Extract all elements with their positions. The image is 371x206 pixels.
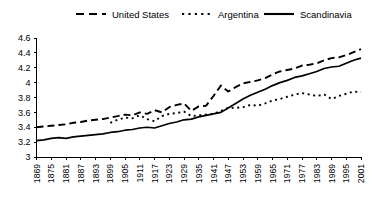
- chart-series-group: [37, 49, 362, 140]
- x-tick-label: 1869: [32, 164, 42, 183]
- x-tick-label: 1977: [297, 164, 307, 183]
- legend-label-scandinavia: Scandinavia: [300, 9, 352, 20]
- chart-legend: United StatesArgentinaScandinavia: [76, 9, 352, 20]
- y-tick-label: 3.2: [18, 137, 31, 147]
- y-tick-label: 4: [25, 78, 30, 88]
- x-axis: 1869187518811887189318991905191119171923…: [32, 157, 367, 183]
- y-tick-label: 4.6: [18, 33, 31, 43]
- y-tick-label: 3.8: [18, 93, 31, 103]
- x-tick-label: 1923: [164, 164, 174, 183]
- x-tick-label: 1989: [327, 164, 337, 183]
- x-tick-label: 1893: [91, 164, 101, 183]
- x-tick-label: 1875: [46, 164, 56, 183]
- line-chart: United StatesArgentinaScandinavia 33.23.…: [0, 0, 371, 206]
- x-tick-label: 1941: [209, 164, 219, 183]
- x-tick-label: 1983: [312, 164, 322, 183]
- series-line-united-states: [37, 49, 362, 127]
- y-tick-label: 3: [25, 152, 30, 162]
- x-tick-label: 1995: [341, 164, 351, 183]
- y-tick-label: 4.2: [18, 63, 31, 73]
- x-tick-label: 2001: [356, 164, 366, 183]
- x-tick-label: 1899: [105, 164, 115, 183]
- legend-label-united-states: United States: [112, 9, 169, 20]
- x-tick-label: 1971: [282, 164, 292, 183]
- x-tick-label: 1905: [120, 164, 130, 183]
- y-tick-label: 3.4: [18, 122, 31, 132]
- x-tick-label: 1881: [61, 164, 71, 183]
- legend-label-argentina: Argentina: [218, 9, 259, 20]
- x-tick-label: 1947: [223, 164, 233, 183]
- y-axis: 33.23.43.63.844.24.44.6: [18, 33, 37, 162]
- chart-container: United StatesArgentinaScandinavia 33.23.…: [0, 0, 371, 206]
- y-tick-label: 4.4: [18, 48, 31, 58]
- x-tick-label: 1917: [150, 164, 160, 183]
- x-tick-label: 1887: [76, 164, 86, 183]
- x-tick-label: 1965: [268, 164, 278, 183]
- x-tick-label: 1953: [238, 164, 248, 183]
- series-line-scandinavia: [37, 58, 362, 141]
- x-tick-label: 1929: [179, 164, 189, 183]
- x-tick-label: 1935: [194, 164, 204, 183]
- y-tick-label: 3.6: [18, 108, 31, 118]
- series-line-argentina: [110, 92, 361, 123]
- x-tick-label: 1911: [135, 164, 145, 183]
- x-tick-label: 1959: [253, 164, 263, 183]
